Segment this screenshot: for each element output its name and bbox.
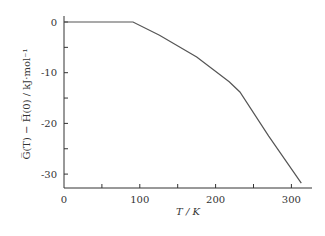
ticks	[64, 22, 291, 188]
y-tick-label: -20	[41, 118, 57, 129]
axes	[64, 16, 312, 188]
y-tick-label: -30	[41, 169, 57, 180]
tick-labels: 01002003000-10-20-30	[41, 17, 301, 206]
x-tick-label: 0	[61, 194, 67, 205]
chart: 01002003000-10-20-30 T / K G̅(T) − H̅(0)…	[0, 0, 325, 236]
x-tick-label: 200	[206, 194, 225, 205]
y-axis-title: G̅(T) − H̅(0) / kJ·mol⁻¹	[21, 48, 32, 159]
data-line	[64, 22, 301, 183]
x-axis-title: T / K	[176, 206, 200, 217]
x-tick-label: 300	[282, 194, 301, 205]
x-tick-label: 100	[130, 194, 149, 205]
y-tick-label: -10	[41, 67, 57, 78]
y-tick-label: 0	[51, 17, 57, 28]
